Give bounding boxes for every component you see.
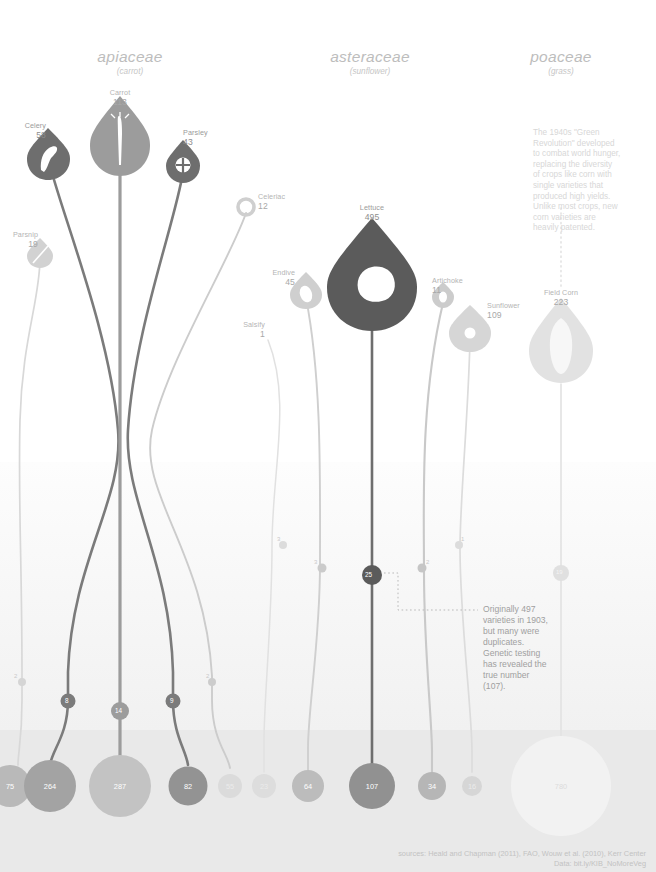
root-label-artichoke: 34 xyxy=(412,782,452,791)
family-heading-poaceae: poaceae (grass) xyxy=(491,48,631,76)
family-heading-asteraceae: asteraceae (sunflower) xyxy=(300,48,440,76)
node-parsnip xyxy=(18,678,26,686)
node-label-parsnip: 2 xyxy=(14,673,17,679)
crop-label-salsify: Salsify 1 xyxy=(225,320,265,339)
root-label-parsley: 82 xyxy=(168,782,208,791)
crop-value: 11 xyxy=(432,286,476,296)
node-label-fieldcorn: 19 xyxy=(556,569,563,575)
sources-block: sources: Heald and Chapman (2011), FAO, … xyxy=(236,849,646,869)
crop-name: Parsley xyxy=(183,128,208,137)
node-label-carrot: 14 xyxy=(115,707,122,714)
node-label-salsify: 3 xyxy=(277,536,280,542)
crop-value: 19 xyxy=(0,240,38,250)
sources-line-2: Data: bit.ly/KIB_NoMoreVeg xyxy=(236,859,646,869)
crop-value: 223 xyxy=(521,298,601,308)
node-endive xyxy=(318,564,327,573)
crop-name: Celery xyxy=(25,121,46,130)
crop-label-fieldcorn: Field Corn 223 xyxy=(521,288,601,307)
crop-label-artichoke: Artichoke 11 xyxy=(432,276,476,295)
root-label-carrot: 287 xyxy=(100,782,140,791)
crop-label-celeriac: Celeriac 12 xyxy=(258,192,308,211)
node-label-celery: 8 xyxy=(65,697,69,704)
node-label-lettuce: 25 xyxy=(365,571,372,578)
sources-line-1: sources: Heald and Chapman (2011), FAO, … xyxy=(236,849,646,859)
family-name: poaceae xyxy=(491,48,631,66)
family-common: (grass) xyxy=(491,67,631,76)
crop-name: Lettuce xyxy=(360,203,384,212)
crop-value: 43 xyxy=(183,138,233,148)
root-label-salsify: 23 xyxy=(244,782,284,791)
crop-name: Artichoke xyxy=(432,276,463,285)
root-label-endive: 64 xyxy=(288,782,328,791)
lettuce-glyph xyxy=(358,267,395,302)
crop-label-carrot: Carrot 113 xyxy=(80,88,160,107)
family-heading-apiaceae: apiaceae (carrot) xyxy=(60,48,200,76)
family-name: apiaceae xyxy=(60,48,200,66)
crop-label-parsley: Parsley 43 xyxy=(183,128,233,147)
node-label-parsley: 9 xyxy=(170,697,174,704)
family-name: asteraceae xyxy=(300,48,440,66)
node-label-celeriac: 2 xyxy=(206,673,209,679)
node-label-sunflower: 1 xyxy=(461,536,464,542)
root-label-parsnip: 75 xyxy=(0,782,30,791)
node-label-artichoke: 2 xyxy=(426,559,429,565)
node-sunflower xyxy=(455,541,463,549)
crop-value: 113 xyxy=(80,98,160,108)
node-salsify xyxy=(279,541,287,549)
root-label-fieldcorn: 780 xyxy=(541,782,581,791)
green-revolution-note: The 1940s "Green Revolution" developed t… xyxy=(533,128,621,234)
crop-value: 12 xyxy=(258,202,308,212)
family-common: (carrot) xyxy=(60,67,200,76)
crop-name: Carrot xyxy=(110,88,131,97)
crop-value: 58 xyxy=(0,131,46,141)
crop-name: Parsnip xyxy=(13,230,38,239)
soil-band-upper xyxy=(0,462,656,730)
sunflower-glyph xyxy=(465,328,476,339)
lettuce-annotation: Originally 497 varieties in 1903, but ma… xyxy=(483,604,553,692)
node-label-endive: 3 xyxy=(314,559,317,565)
crop-label-endive: Endive 45 xyxy=(255,268,295,287)
root-label-celery: 264 xyxy=(30,782,70,791)
crop-name: Field Corn xyxy=(544,288,578,297)
crop-name: Salsify xyxy=(243,320,265,329)
crop-name: Celeriac xyxy=(258,192,285,201)
crop-label-parsnip: Parsnip 19 xyxy=(0,230,38,249)
crop-label-celery: Celery 58 xyxy=(0,121,46,140)
root-label-sunflower: 16 xyxy=(452,782,492,791)
crop-value: 495 xyxy=(332,213,412,223)
family-common: (sunflower) xyxy=(300,67,440,76)
node-celeriac xyxy=(208,678,216,686)
crop-value: 109 xyxy=(487,311,533,321)
root-label-lettuce: 107 xyxy=(352,782,392,791)
crop-label-lettuce: Lettuce 495 xyxy=(332,203,412,222)
crop-name: Endive xyxy=(272,268,295,277)
crop-value: 45 xyxy=(255,278,295,288)
infographic-canvas: apiaceae (carrot) asteraceae (sunflower)… xyxy=(0,0,656,872)
crop-name: Sunflower xyxy=(487,301,520,310)
crop-value: 1 xyxy=(225,330,265,340)
